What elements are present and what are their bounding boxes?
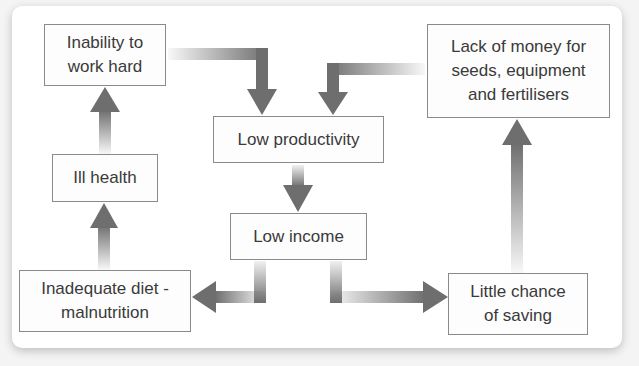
node-inadequate-diet: Inadequate diet - malnutrition xyxy=(19,270,191,332)
arrow-productivity-to-income xyxy=(283,165,313,212)
arrow-saving-to-money xyxy=(502,119,532,273)
node-inability-to-work-hard: Inability to work hard xyxy=(44,24,166,86)
node-ill-health: Ill health xyxy=(52,154,158,202)
arrow-income-to-diet xyxy=(192,261,266,313)
node-low-productivity: Low productivity xyxy=(213,116,384,163)
arrow-inability-to-productivity xyxy=(168,48,277,115)
node-low-income: Low income xyxy=(230,213,367,260)
node-little-chance-of-saving: Little chance of saving xyxy=(448,273,588,335)
arrow-money-to-productivity xyxy=(318,63,425,115)
node-lack-of-money: Lack of money for seeds, equipment and f… xyxy=(427,24,610,118)
arrow-income-to-saving xyxy=(330,261,448,313)
arrow-illhealth-to-inability xyxy=(90,87,120,154)
arrow-diet-to-illhealth xyxy=(90,203,118,270)
